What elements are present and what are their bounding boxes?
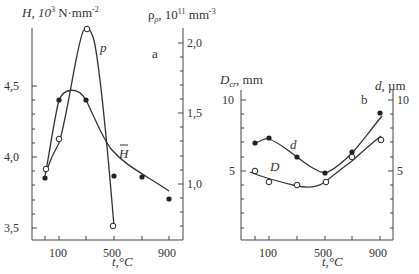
y-tick-3-5: 3,5 (4, 221, 19, 235)
y2-tick-10-b: 10 (397, 93, 409, 107)
panel-b-chart: 10 5 10 5 100 500 900 t,°C Dcr, mm d, µm… (219, 72, 409, 269)
x-axis-label-b: t,°C (322, 254, 343, 269)
right-y-ticks (178, 43, 183, 226)
x-ticks-b (255, 236, 380, 240)
curve-label-D: D (269, 159, 280, 174)
y-tick-4-0: 4,0 (4, 150, 19, 164)
curve-label-p: p (99, 40, 107, 55)
curve-label-d: d (290, 137, 297, 152)
figure: 4,5 4,0 3,5 2,0 1,5 1,0 100 500 900 t,°C… (0, 0, 419, 274)
y2-tick-2-0: 2,0 (187, 36, 202, 50)
svg-text:H: H (118, 146, 129, 161)
left-y-ticks-b (241, 100, 246, 228)
y-tick-5-b: 5 (229, 164, 235, 178)
y2-tick-1-5: 1,5 (187, 106, 202, 120)
x-tick-100: 100 (49, 246, 67, 260)
y-tick-4-5: 4,5 (4, 79, 19, 93)
x-ticks (45, 236, 169, 240)
y2-axis-label-rho: ρρ, 1011 mm-3 (148, 7, 216, 24)
x-tick-100-b: 100 (259, 246, 277, 260)
y-tick-10-b: 10 (222, 93, 234, 107)
x-axis-label: t,°C (112, 254, 133, 269)
y-axis-label-h: H, 103 N·mm-2 (21, 5, 99, 20)
left-y-ticks (32, 86, 37, 228)
panel-a-chart: 4,5 4,0 3,5 2,0 1,5 1,0 100 500 900 t,°C… (4, 5, 216, 269)
x-tick-900: 900 (158, 246, 176, 260)
y2-tick-5-b: 5 (397, 164, 403, 178)
y2-axis-label-d: d, µm (375, 78, 406, 93)
y-axis-label-dcr: Dcr, mm (219, 72, 263, 89)
rho-curve (46, 29, 114, 226)
y2-tick-1-0: 1,0 (187, 177, 202, 191)
panel-letter-a: a (152, 46, 158, 61)
right-y-ticks-b (388, 100, 393, 228)
panel-letter-b: b (361, 92, 368, 107)
x-tick-900-b: 900 (369, 246, 387, 260)
